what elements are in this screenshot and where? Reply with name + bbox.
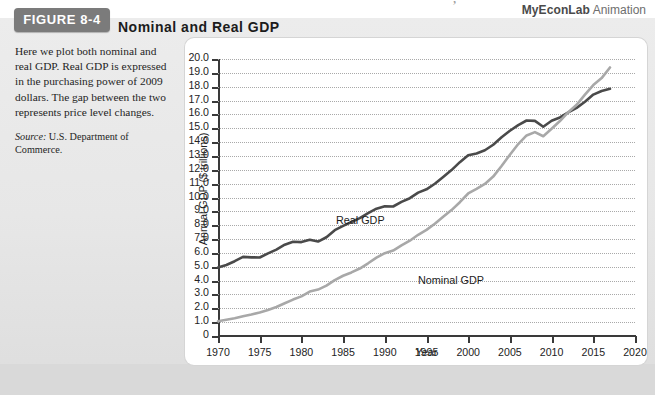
y-axis-tick-label: 0 [203, 328, 209, 340]
caption-source-label: Source: [15, 131, 46, 142]
series-line-real-gdp [218, 89, 610, 268]
x-axis-tick [218, 336, 220, 343]
figure-title: Nominal and Real GDP [118, 19, 280, 35]
plot-area: 01.02.03.04.05.06.07.08.09.010.011.012.0… [218, 59, 635, 335]
series-lines [218, 59, 635, 336]
x-axis-tick [301, 336, 303, 343]
figure-number-label: FIGURE 8-4 [14, 8, 110, 32]
y-axis-title: Annual GDP ($ trillions) [197, 59, 209, 319]
page-background-footer [0, 364, 655, 395]
ink-artifact: ’ [452, 1, 461, 12]
figure-number-tab: FIGURE 8-4 [14, 8, 110, 32]
myeconlab-branding: MyEconLab Animation [522, 3, 646, 17]
x-axis-tick [635, 336, 637, 343]
x-axis-tick [510, 336, 512, 343]
myeconlab-suffix: Animation [590, 3, 646, 17]
caption-source: Source: U.S. Department of Commerce. [15, 130, 175, 156]
x-axis-tick [468, 336, 470, 343]
x-axis-tick [385, 336, 387, 343]
x-axis-tick [260, 336, 262, 343]
figure-root: ’ FIGURE 8-4 Nominal and Real GDP MyEcon… [0, 0, 655, 395]
series-label-real-gdp: Real GDP [336, 214, 385, 226]
series-label-nominal-gdp: Nominal GDP [418, 274, 484, 286]
myeconlab-product-name: MyEconLab [522, 3, 590, 17]
x-axis-tick [552, 336, 554, 343]
x-axis-tick [427, 336, 429, 343]
caption-column: Here we plot both nominal and real GDP. … [15, 44, 175, 156]
x-axis-tick [343, 336, 345, 343]
x-axis-tick [593, 336, 595, 343]
caption-body: Here we plot both nominal and real GDP. … [15, 44, 175, 120]
x-axis-title: Year [218, 346, 635, 358]
chart-card: 01.02.03.04.05.06.07.08.09.010.011.012.0… [185, 38, 647, 365]
